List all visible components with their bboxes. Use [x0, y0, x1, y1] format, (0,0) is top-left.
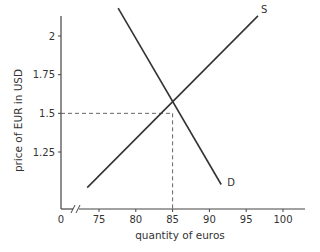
- supply-demand-chart: 075808590951001.251.51.752quantity of eu…: [0, 0, 320, 252]
- y-tick-label: 1.25: [33, 147, 55, 158]
- y-tick-label: 2: [49, 31, 55, 42]
- x-tick-label: 90: [203, 214, 216, 225]
- x-origin-label: 0: [58, 214, 64, 225]
- supply-curve-label: S: [261, 4, 267, 15]
- demand-curve: [118, 8, 221, 184]
- y-axis-title: price of EUR in USD: [12, 69, 24, 172]
- x-axis-title: quantity of euros: [135, 229, 225, 241]
- x-tick-label: 80: [129, 214, 142, 225]
- x-tick-label: 85: [166, 214, 179, 225]
- x-tick-label: 75: [93, 214, 106, 225]
- x-tick-label: 100: [273, 214, 292, 225]
- x-tick-label: 95: [240, 214, 253, 225]
- y-tick-label: 1.75: [33, 69, 55, 80]
- demand-curve-label: D: [227, 177, 235, 188]
- y-tick-label: 1.5: [39, 108, 55, 119]
